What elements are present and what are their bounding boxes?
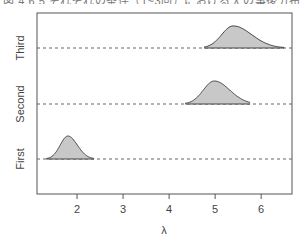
ridgeline-chart: 23456 FirstSecondThird λ xyxy=(0,0,304,246)
x-axis-label: λ xyxy=(161,224,167,236)
x-tick-label: 5 xyxy=(212,203,218,215)
y-label-third: Third xyxy=(14,35,26,60)
density-fill-second xyxy=(185,81,250,104)
y-axis-labels: FirstSecondThird xyxy=(14,35,26,169)
y-label-first: First xyxy=(14,148,26,169)
x-tick-label: 2 xyxy=(74,203,80,215)
y-label-second: Second xyxy=(14,85,26,122)
x-tick-label: 6 xyxy=(258,203,264,215)
x-axis: 23456 xyxy=(74,194,264,215)
x-tick-label: 3 xyxy=(120,203,126,215)
density-ridges xyxy=(37,26,292,159)
x-tick-label: 4 xyxy=(166,203,172,215)
